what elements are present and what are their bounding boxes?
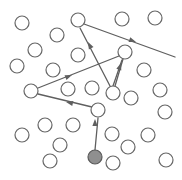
node[interactable] [61,82,75,96]
node[interactable] [71,13,85,27]
node[interactable] [46,63,60,77]
node[interactable] [43,154,57,168]
node[interactable] [50,28,64,42]
node[interactable] [141,128,155,142]
arrowhead-icon [92,119,97,126]
node[interactable] [71,48,85,62]
node[interactable] [15,16,29,30]
nodes-layer [10,11,173,170]
node[interactable] [91,103,105,117]
node[interactable] [148,11,162,25]
node[interactable] [118,45,132,59]
node[interactable] [158,105,172,119]
path-segment [115,59,123,86]
node[interactable] [53,138,67,152]
node[interactable] [24,84,38,98]
path-diagram-canvas [0,0,182,180]
node[interactable] [66,118,80,132]
node[interactable] [85,81,99,95]
node[interactable] [106,156,120,170]
node[interactable] [38,118,52,132]
node[interactable] [10,59,24,73]
start-node[interactable] [88,150,102,164]
arrowhead-icon [116,62,123,70]
node[interactable] [115,12,129,26]
node[interactable] [28,43,42,57]
node[interactable] [137,63,151,77]
diagram-svg [0,0,182,180]
arrowhead-icon [65,73,73,80]
node[interactable] [153,83,167,97]
node[interactable] [106,86,120,100]
node[interactable] [105,127,119,141]
node[interactable] [15,128,29,142]
node[interactable] [121,140,135,154]
node[interactable] [159,153,173,167]
node[interactable] [124,91,138,105]
